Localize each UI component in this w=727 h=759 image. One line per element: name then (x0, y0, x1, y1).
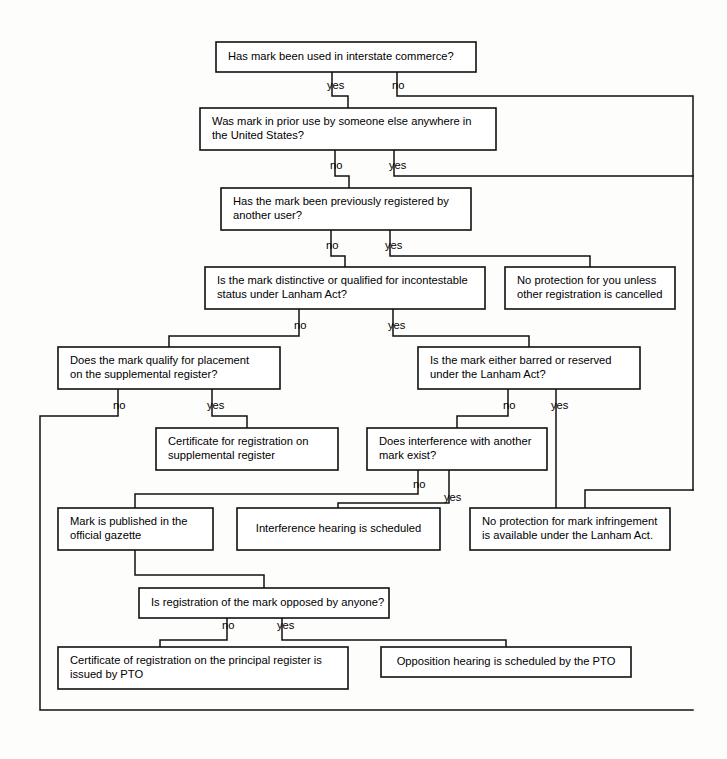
node-r-opposition-hearing[interactable]: Opposition hearing is scheduled by the P… (381, 647, 631, 677)
node-text-line: No protection for you unless (517, 274, 657, 286)
edge-label-e7-yes: yes (444, 491, 462, 503)
connector-c-prior-yes (394, 150, 693, 176)
edge-label-e8-no: no (222, 619, 234, 631)
node-text-line: other registration is cancelled (517, 288, 663, 300)
flowchart-svg: Has mark been used in interstate commerc… (0, 0, 727, 759)
node-text-line: supplemental register (168, 449, 275, 461)
node-text-line: Is the mark distinctive or qualified for… (217, 274, 468, 286)
connector-c-opp-yes (282, 618, 506, 647)
edge-label-e5-no: no (113, 399, 125, 411)
node-text-line: Does interference with another (379, 435, 532, 447)
node-r-published-gazette[interactable]: Mark is published in theofficial gazette (58, 508, 213, 550)
connector-c-gazette-down (135, 550, 264, 588)
node-text-line: is available under the Lanham Act. (482, 529, 653, 541)
edge-label-e4-no: no (294, 319, 306, 331)
edge-label-e6-yes: yes (551, 399, 569, 411)
node-q-interstate[interactable]: Has mark been used in interstate commerc… (216, 42, 476, 72)
edge-label-e2-no: no (330, 159, 342, 171)
connector-c-prev-yes (390, 230, 590, 267)
node-q-barred-reserved[interactable]: Is the mark either barred or reservedund… (418, 347, 640, 389)
edge-label-e3-no: no (326, 239, 338, 251)
edge-label-e5-yes: yes (207, 399, 225, 411)
node-text-line: Certificate of registration on the princ… (70, 654, 322, 666)
edge-label-e7-no: no (413, 478, 425, 490)
node-text-line: status under Lanham Act? (217, 288, 347, 300)
node-q-interference[interactable]: Does interference with anothermark exist… (367, 428, 547, 470)
node-text-line: Mark is published in the (70, 515, 188, 527)
node-q-supplemental[interactable]: Does the mark qualify for placementon th… (58, 347, 280, 389)
edge-label-e1-yes: yes (327, 79, 345, 91)
connector-c-opp-no (160, 618, 227, 647)
node-text-line: Interference hearing is scheduled (256, 522, 421, 534)
node-text-line: Has the mark been previously registered … (233, 195, 449, 207)
node-text-line: issued by PTO (70, 668, 143, 680)
node-text-line: mark exist? (379, 449, 436, 461)
node-layer: Has mark been used in interstate commerc… (58, 42, 675, 689)
node-r-interference-hearing[interactable]: Interference hearing is scheduled (237, 508, 440, 550)
edge-label-e3-yes: yes (385, 239, 403, 251)
node-r-certificate-supplemental[interactable]: Certificate for registration onsupplemen… (156, 428, 338, 470)
connector-c-dist-no (169, 309, 299, 347)
node-q-opposed[interactable]: Is registration of the mark opposed by a… (139, 588, 389, 618)
connector-c-interf-yes (338, 470, 449, 508)
node-q-prior-use[interactable]: Was mark in prior use by someone else an… (200, 108, 496, 150)
edge-label-e2-yes: yes (389, 159, 407, 171)
edge-label-e8-yes: yes (277, 619, 295, 631)
node-text-line: No protection for mark infringement (482, 515, 658, 527)
edge-label-e6-no: no (503, 399, 515, 411)
node-text-line: Opposition hearing is scheduled by the P… (397, 655, 616, 667)
node-text-line: under the Lanham Act? (430, 368, 546, 380)
node-r-no-protection-infringement[interactable]: No protection for mark infringementis av… (470, 508, 670, 550)
node-text-line: Is registration of the mark opposed by a… (151, 596, 384, 608)
edge-label-e4-yes: yes (388, 319, 406, 331)
node-q-distinctive[interactable]: Is the mark distinctive or qualified for… (205, 267, 485, 309)
node-q-previously-registered[interactable]: Has the mark been previously registered … (221, 188, 471, 230)
node-r-no-protection-unless[interactable]: No protection for you unlessother regist… (505, 267, 675, 309)
edge-label-e1-no: no (392, 79, 404, 91)
connector-c-barred-no (457, 389, 508, 428)
node-r-certificate-principal[interactable]: Certificate of registration on the princ… (58, 647, 348, 689)
flowchart-canvas: Has mark been used in interstate commerc… (0, 0, 727, 759)
node-text-line: Does the mark qualify for placement (70, 354, 250, 366)
node-text-line: another user? (233, 209, 302, 221)
node-text-line: the United States? (212, 129, 304, 141)
node-text-line: official gazette (70, 529, 141, 541)
node-text-line: on the supplemental register? (70, 368, 217, 380)
node-text-line: Is the mark either barred or reserved (430, 354, 612, 366)
connector-c-dist-yes (393, 309, 529, 347)
connector-c-right-into-noprot (585, 490, 693, 508)
node-text-line: Certificate for registration on (168, 435, 309, 447)
node-text-line: Was mark in prior use by someone else an… (212, 115, 472, 127)
node-text-line: Has mark been used in interstate commerc… (228, 50, 454, 62)
